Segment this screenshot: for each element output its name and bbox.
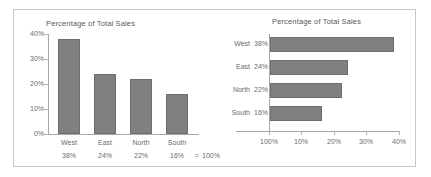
left-ytick-label-0: 0%	[14, 130, 44, 137]
left-ytick-30	[44, 59, 48, 60]
left-ytick-label-1: 10%	[14, 105, 44, 112]
left-ytick-0	[44, 134, 48, 135]
hbar-south	[270, 106, 322, 121]
bar-east	[94, 74, 116, 134]
left-category-label-west: West	[54, 139, 84, 146]
left-ytick-label-2: 20%	[14, 80, 44, 87]
left-value-label-south: 16%	[161, 152, 193, 159]
left-ytick-20	[44, 84, 48, 85]
left-category-label-east: East	[90, 139, 120, 146]
figure-frame: Percentage of Total Sales 0% 10% 20% 30%…	[13, 9, 416, 167]
right-category-label-south: South	[222, 109, 250, 116]
horizontal-bar-chart: Percentage of Total Sales West 38% East …	[214, 10, 417, 166]
left-ytick-label-3: 30%	[14, 55, 44, 62]
left-x-axis	[48, 134, 199, 135]
right-xtick-label-2: 20%	[317, 138, 351, 145]
total-equals-sign: =	[192, 152, 202, 159]
hbar-north	[270, 83, 342, 98]
left-ytick-40	[44, 34, 48, 35]
right-xtick-10	[301, 131, 302, 135]
left-value-label-west: 38%	[54, 152, 84, 159]
right-xtick-label-0: 100%	[252, 138, 286, 145]
right-xtick-label-3: 30%	[349, 138, 383, 145]
bar-north	[130, 79, 152, 134]
hbar-east	[270, 60, 348, 75]
left-chart-title: Percentage of Total Sales	[46, 19, 135, 28]
hbar-west	[270, 37, 394, 52]
left-category-label-south: South	[161, 139, 193, 146]
right-xtick-label-4: 40%	[382, 138, 416, 145]
right-xtick-30	[366, 131, 367, 135]
left-value-label-north: 22%	[124, 152, 158, 159]
bar-south	[166, 94, 188, 134]
left-ytick-10	[44, 109, 48, 110]
right-xtick-20	[334, 131, 335, 135]
vertical-bar-chart: Percentage of Total Sales 0% 10% 20% 30%…	[14, 10, 214, 166]
right-xtick-40	[399, 131, 400, 135]
right-x-axis	[236, 131, 400, 132]
left-category-label-north: North	[124, 139, 158, 146]
left-ytick-label-4: 40%	[14, 30, 44, 37]
right-xtick-0	[269, 131, 270, 135]
bar-west	[58, 39, 80, 134]
right-chart-title: Percentage of Total Sales	[272, 17, 361, 26]
right-category-label-north: North	[222, 86, 250, 93]
right-xtick-label-1: 10%	[284, 138, 318, 145]
right-category-label-east: East	[222, 63, 250, 70]
left-y-axis	[48, 34, 49, 135]
left-value-label-east: 24%	[90, 152, 120, 159]
right-category-label-west: West	[222, 40, 250, 47]
